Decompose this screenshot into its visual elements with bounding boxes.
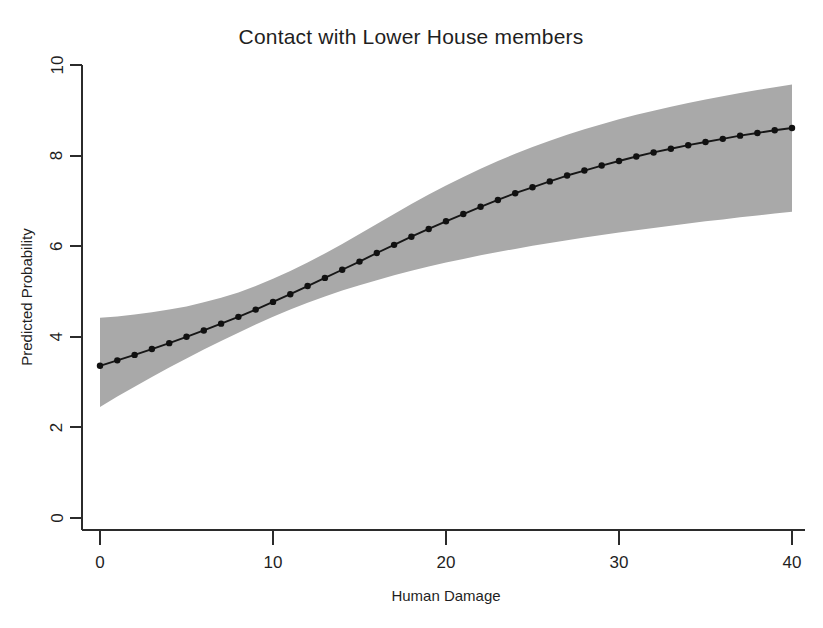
data-point-marker [685, 142, 691, 148]
data-point-marker [754, 130, 760, 136]
data-point-marker [564, 172, 570, 178]
y-tick-label: 0 [48, 513, 67, 522]
chart-title: Contact with Lower House members [239, 25, 584, 48]
data-point-marker [166, 340, 172, 346]
data-point-marker [495, 197, 501, 203]
y-tick-label: 6 [48, 241, 67, 250]
data-point-marker [477, 204, 483, 210]
data-point-marker [772, 127, 778, 133]
data-point-marker [529, 184, 535, 190]
data-point-marker [270, 299, 276, 305]
x-tick-label: 20 [437, 553, 456, 572]
x-axis-title: Human Damage [391, 587, 500, 604]
y-tick-label: 8 [48, 151, 67, 160]
data-point-marker [616, 158, 622, 164]
data-point-marker [183, 334, 189, 340]
data-point-marker [97, 363, 103, 369]
data-point-marker [391, 242, 397, 248]
data-point-marker [218, 320, 224, 326]
x-tick-label: 30 [610, 553, 629, 572]
data-point-marker [374, 250, 380, 256]
chart-canvas: Contact with Lower House members 0246810… [0, 0, 823, 628]
data-point-marker [512, 190, 518, 196]
data-point-marker [650, 149, 656, 155]
data-point-marker [702, 139, 708, 145]
data-point-marker [443, 218, 449, 224]
figure-background [0, 0, 823, 628]
data-point-marker [201, 327, 207, 333]
data-point-marker [131, 352, 137, 358]
data-point-marker [789, 125, 795, 131]
data-point-marker [599, 162, 605, 168]
y-tick-label: 10 [48, 56, 67, 75]
data-point-marker [114, 357, 120, 363]
data-point-marker [633, 153, 639, 159]
x-tick-label: 0 [95, 553, 104, 572]
x-tick-label: 10 [264, 553, 283, 572]
data-point-marker [547, 178, 553, 184]
data-point-marker [408, 233, 414, 239]
data-point-marker [356, 258, 362, 264]
y-axis-title: Predicted Probability [18, 228, 35, 366]
data-point-marker [668, 146, 674, 152]
data-point-marker [235, 314, 241, 320]
data-point-marker [426, 226, 432, 232]
data-point-marker [737, 132, 743, 138]
chart-figure: Contact with Lower House members 0246810… [0, 0, 823, 628]
data-point-marker [253, 306, 259, 312]
y-tick-label: 4 [48, 332, 67, 341]
data-point-marker [339, 267, 345, 273]
data-point-marker [322, 275, 328, 281]
data-point-marker [304, 283, 310, 289]
data-point-marker [149, 346, 155, 352]
x-tick-label: 40 [783, 553, 802, 572]
data-point-marker [581, 167, 587, 173]
data-point-marker [720, 136, 726, 142]
data-point-marker [287, 291, 293, 297]
data-point-marker [460, 211, 466, 217]
y-tick-label: 2 [48, 423, 67, 432]
